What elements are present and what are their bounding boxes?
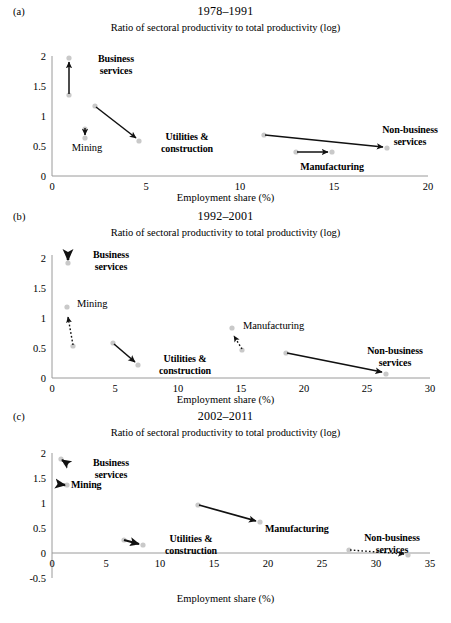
- panel-a-ytick-1: 0.5: [33, 141, 46, 152]
- panel-c-series-manufacturing: [195, 502, 262, 524]
- panel-a-xtick-4: 20: [423, 181, 434, 192]
- panel-c-ytick-4: 1.5: [33, 473, 46, 484]
- panel-b-x-axis-title: Employment share (%): [0, 394, 451, 405]
- panel-a-series-business-services: [66, 55, 71, 97]
- panel-b-xtick-1: 5: [112, 383, 117, 394]
- panel-c-x-ticks: 0 5 10 15 20 25 30 35: [49, 558, 435, 569]
- panel-c-ytick-0: -0.5: [29, 573, 46, 584]
- panel-a-series-mining: [82, 126, 87, 140]
- panel-b-series-mining: [64, 304, 75, 348]
- panel-b-xtick-0: 0: [49, 383, 54, 394]
- end-point: [383, 371, 388, 376]
- panel-b-y-ticks: 0 0.5 1 1.5 2: [33, 253, 46, 384]
- panel-a: (a) 1978–1991 Ratio of sectoral producti…: [0, 0, 451, 205]
- panel-a-x-ticks: 0 5 10 15 20: [49, 181, 433, 192]
- arrow: [199, 505, 256, 521]
- end-point: [140, 542, 145, 547]
- end-point: [329, 149, 334, 154]
- panel-a-xtick-1: 5: [143, 181, 148, 192]
- panel-a-series-utilities-construction: [92, 103, 141, 143]
- panel-a-plot: 0 0.5 1 1.5 2 0 5 10 15 20: [0, 0, 451, 205]
- start-point: [65, 260, 70, 265]
- panel-c-x-axis-title: Employment share (%): [0, 593, 451, 604]
- panel-b-label-manufacturing: Manufacturing: [243, 320, 304, 332]
- arrow: [114, 344, 135, 362]
- arrow: [68, 317, 73, 345]
- panel-c-ytick-2: 0.5: [33, 523, 46, 534]
- panel-c-xtick-7: 35: [425, 558, 436, 569]
- panel-b-xtick-6: 30: [425, 383, 436, 394]
- panel-c-xtick-2: 10: [155, 558, 166, 569]
- panel-c-xtick-4: 20: [263, 558, 274, 569]
- panel-b-series-business-services: [65, 252, 70, 265]
- end-point: [82, 135, 87, 140]
- arrow: [265, 135, 383, 147]
- panel-a-xtick-0: 0: [49, 181, 54, 192]
- panel-c-xtick-6: 30: [371, 558, 382, 569]
- end-point: [136, 138, 141, 143]
- end-point: [64, 482, 69, 487]
- panel-a-label-utilities-construction: Utilities &construction: [144, 131, 230, 154]
- panel-b-label-mining: Mining: [77, 298, 107, 310]
- panel-a-ytick-3: 1.5: [33, 81, 46, 92]
- end-point: [257, 519, 262, 524]
- panel-c-label-utilities-construction: Utilities &construction: [148, 533, 234, 556]
- panel-a-xtick-2: 10: [235, 181, 246, 192]
- panel-b-xtick-4: 20: [299, 383, 310, 394]
- panel-c-label-non-business-services: Non-businessservices: [350, 532, 434, 555]
- panel-b-ytick-2: 1: [41, 313, 46, 324]
- arrow: [58, 484, 65, 485]
- panel-c-xtick-5: 25: [317, 558, 328, 569]
- panel-a-ytick-2: 1: [41, 111, 46, 122]
- panel-c-xtick-3: 15: [209, 558, 220, 569]
- panel-a-x-axis-title: Employment share (%): [0, 192, 451, 203]
- panel-c-series-business-services: [58, 456, 68, 465]
- panel-b-label-utilities-construction: Utilities &construction: [142, 353, 228, 376]
- panel-c: (c) 2002–2011 Ratio of sectoral producti…: [0, 405, 451, 623]
- panel-b-series-utilities-construction: [110, 340, 140, 367]
- panel-b-xtick-5: 25: [362, 383, 373, 394]
- panel-a-y-ticks: 0 0.5 1 1.5 2: [33, 51, 46, 182]
- panel-b-xtick-3: 15: [236, 383, 247, 394]
- panel-c-plot: -0.5 0 0.5 1 1.5 2 0 5 10 15 20 25 30 35: [0, 405, 451, 623]
- panel-b-x-ticks: 0 5 10 15 20 25 30: [49, 383, 435, 394]
- panel-a-series-manufacturing: [293, 149, 334, 154]
- panel-b-ytick-3: 1.5: [33, 283, 46, 294]
- panel-b-label-non-business-services: Non-businessservices: [355, 345, 435, 368]
- arrow: [124, 540, 139, 544]
- end-point: [66, 55, 71, 60]
- panel-a-label-manufacturing: Manufacturing: [286, 161, 378, 173]
- panel-a-label-mining: Mining: [60, 142, 114, 154]
- panel-c-series-mining: [57, 481, 69, 487]
- panel-a-xtick-3: 15: [329, 181, 340, 192]
- panel-c-xtick-1: 5: [103, 558, 108, 569]
- end-point: [64, 304, 69, 309]
- panel-c-ytick-1: 0: [41, 548, 46, 559]
- panel-b: (b) 1992–2001 Ratio of sectoral producti…: [0, 205, 451, 405]
- end-point: [229, 325, 234, 330]
- end-point: [135, 362, 140, 367]
- panel-a-label-business-services: Businessservices: [79, 53, 153, 76]
- panel-c-y-ticks: -0.5 0 0.5 1 1.5 2: [29, 448, 46, 584]
- panel-c-label-mining: Mining: [71, 479, 102, 491]
- panel-c-ytick-5: 2: [41, 448, 46, 459]
- panel-c-ytick-3: 1: [41, 498, 46, 509]
- panel-a-ytick-4: 2: [41, 51, 46, 62]
- arrow: [96, 107, 136, 138]
- panel-b-xtick-2: 10: [173, 383, 184, 394]
- panel-a-label-non-business-services: Non-businessservices: [370, 124, 450, 147]
- panel-c-label-manufacturing: Manufacturing: [265, 523, 329, 535]
- panel-c-label-business-services: Businessservices: [72, 457, 150, 480]
- panel-b-ytick-1: 0.5: [33, 343, 46, 354]
- panel-c-series-utilities-construction: [121, 537, 145, 547]
- panel-c-xtick-0: 0: [49, 558, 54, 569]
- figure-root: (a) 1978–1991 Ratio of sectoral producti…: [0, 0, 451, 623]
- panel-b-ytick-0: 0: [41, 373, 46, 384]
- arrow: [234, 336, 242, 349]
- panel-b-label-business-services: Businessservices: [76, 249, 146, 272]
- panel-b-ytick-4: 2: [41, 253, 46, 264]
- panel-a-ytick-0: 0: [41, 171, 46, 182]
